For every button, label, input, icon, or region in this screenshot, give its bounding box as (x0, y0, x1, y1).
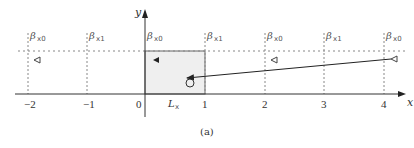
box-width-label: L x (167, 98, 179, 111)
svg-text:β: β (146, 30, 153, 41)
hollow-triangle-icon (271, 57, 277, 63)
x-axis-label: x (407, 96, 414, 109)
svg-text:x0: x0 (393, 35, 402, 43)
svg-text:x0: x0 (274, 35, 283, 43)
hollow-triangle-icon (391, 56, 397, 62)
svg-text:β: β (88, 30, 95, 41)
x-tick-label: 3 (321, 98, 327, 110)
y-axis-label: y (134, 6, 142, 19)
svg-text:β: β (385, 30, 392, 41)
svg-text:β: β (266, 30, 273, 41)
y-axis-arrow-icon (142, 9, 148, 18)
svg-text:x1: x1 (214, 35, 223, 43)
mapping-arrow (187, 59, 391, 78)
x-tick-label: 4 (381, 98, 387, 110)
svg-text:β: β (29, 30, 36, 41)
unit-cell-box (145, 51, 205, 94)
svg-text:β: β (325, 30, 332, 41)
beta-labels: β x0 β x1 β x0 β x1 β x0 β x1 β x0 (29, 30, 402, 43)
x-tick-labels: −2 −1 0 1 2 3 4 (24, 98, 387, 110)
svg-text:x1: x1 (96, 35, 105, 43)
hollow-triangle-icon (34, 57, 40, 63)
svg-text:x1: x1 (333, 35, 342, 43)
svg-text:x0: x0 (37, 35, 46, 43)
figure-caption: (a) (200, 126, 214, 137)
svg-text:L: L (167, 98, 175, 109)
period-boundary-lines (28, 33, 384, 94)
x-axis-arrow-icon (398, 91, 406, 97)
x-tick-label: −1 (83, 98, 95, 110)
svg-text:x0: x0 (154, 35, 163, 43)
periodic-cell-diagram: x y −2 −1 0 1 2 3 4 L x β x0 β x1 β x0 β… (0, 0, 414, 148)
x-tick-label: 2 (262, 98, 268, 110)
svg-text:β: β (206, 30, 213, 41)
x-tick-label: −2 (24, 98, 36, 110)
x-tick-label: 0 (136, 98, 142, 110)
x-tick-label: 1 (202, 98, 208, 110)
svg-text:x: x (175, 103, 179, 111)
